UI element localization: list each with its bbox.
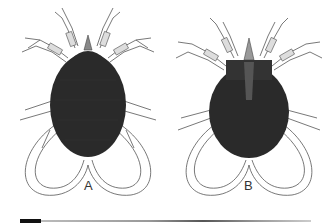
bottom-rule <box>41 220 311 222</box>
panel-a: A <box>0 0 166 205</box>
panel-b: B <box>166 0 332 205</box>
mite-dorsal-illustration <box>0 0 166 205</box>
panel-label-a: A <box>84 178 93 193</box>
mite-ventral-illustration <box>166 0 332 205</box>
panel-label-b: B <box>244 178 253 193</box>
scale-bar-block <box>20 219 41 223</box>
